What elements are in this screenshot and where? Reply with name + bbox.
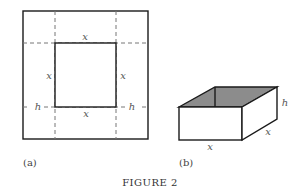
label-right-x: x — [120, 70, 126, 81]
label-box-height: h — [282, 97, 288, 108]
figure-canvas: x x x x h h (a) h x x (b) FIGURE 2 — [0, 0, 300, 196]
box-front-face — [179, 107, 242, 140]
label-box-depth-x: x — [265, 126, 271, 137]
label-cut-h-right: h — [129, 101, 135, 112]
inner-square — [55, 43, 116, 107]
label-cut-h-left: h — [35, 101, 41, 112]
label-left-x: x — [46, 70, 52, 81]
label-box-front-x: x — [207, 141, 213, 152]
panel-a: x x x x h h (a) — [23, 11, 148, 168]
panel-b: h x x (b) — [179, 87, 288, 168]
label-bottom-x: x — [83, 108, 89, 119]
panel-a-label: (a) — [23, 157, 37, 168]
panel-b-label: (b) — [179, 157, 193, 168]
figure-caption: FIGURE 2 — [122, 177, 178, 188]
label-top-x: x — [82, 31, 88, 42]
